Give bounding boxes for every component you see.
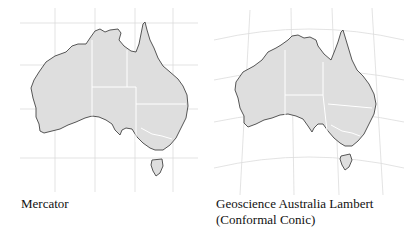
caption-line: Geoscience Australia Lambert — [216, 196, 373, 212]
australia-landmass — [235, 30, 376, 170]
mercator-map — [0, 0, 206, 200]
mercator-panel: Mercator — [0, 0, 206, 230]
lambert-panel: Geoscience Australia Lambert (Conformal … — [206, 0, 413, 230]
lambert-map — [206, 0, 413, 200]
caption-line: Mercator — [21, 196, 69, 212]
australia-landmass — [31, 22, 188, 176]
mercator-caption: Mercator — [21, 196, 69, 212]
caption-line: (Conformal Conic) — [216, 212, 373, 228]
lambert-caption: Geoscience Australia Lambert (Conformal … — [216, 196, 373, 228]
